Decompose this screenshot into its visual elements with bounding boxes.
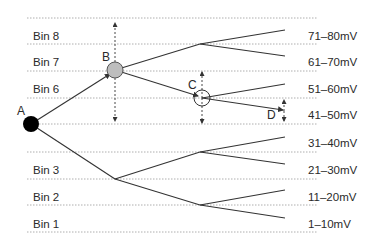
branch-lower-lower (115, 179, 200, 205)
bin-boundaries (27, 18, 318, 232)
branch-bin8 (200, 30, 285, 44)
branch-b-upper (115, 44, 200, 70)
branch-bin6 (202, 84, 285, 98)
bin-label-2: Bin 2 (33, 190, 59, 204)
range-label-bin1: 1–10mV (308, 217, 351, 231)
bin-label-6: Bin 6 (33, 82, 59, 96)
branch-b-c (115, 70, 198, 96)
branch-bin2 (200, 190, 285, 205)
range-label-bin5: 41–50mV (308, 108, 357, 122)
branch-lower-upper (115, 152, 200, 179)
node-a-circle (23, 116, 39, 132)
range-label-bin6: 51–60mV (308, 82, 357, 96)
node-label-c: C (188, 78, 197, 92)
branch-bin1 (200, 205, 285, 218)
node-label-d: D (267, 108, 276, 122)
node-label-a: A (17, 104, 25, 118)
branch-bin3 (200, 152, 285, 164)
branch-bin4 (200, 137, 285, 152)
uncertainty-arrows (115, 23, 284, 123)
bin-label-8: Bin 8 (33, 29, 59, 43)
bin-label-7: Bin 7 (33, 55, 59, 69)
range-label-bin4: 31–40mV (308, 136, 357, 150)
bin-label-1: Bin 1 (33, 217, 59, 231)
range-label-bin7: 61–70mV (308, 55, 357, 69)
branch-bin7 (200, 44, 285, 56)
bin-label-3: Bin 3 (33, 163, 59, 177)
range-label-bin8: 71–80mV (308, 29, 357, 43)
node-label-b: B (102, 50, 110, 64)
node-b-circle (107, 62, 123, 78)
range-label-bin3: 21–30mV (308, 163, 357, 177)
range-label-bin2: 11–20mV (308, 190, 356, 204)
